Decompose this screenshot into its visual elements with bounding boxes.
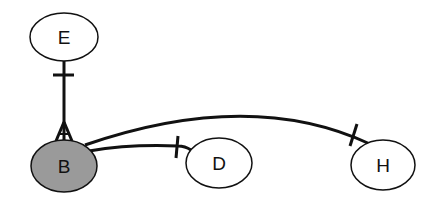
node-h-label: H xyxy=(376,155,390,176)
node-e[interactable]: E xyxy=(30,13,98,61)
node-d[interactable]: D xyxy=(186,138,252,188)
node-d-label: D xyxy=(212,153,226,174)
diagram-svg: E B D H xyxy=(0,0,437,199)
one-tick-mark xyxy=(176,136,178,158)
er-diagram: E B D H xyxy=(0,0,437,199)
node-e-label: E xyxy=(58,27,71,48)
node-b[interactable]: B xyxy=(31,140,97,192)
node-h[interactable]: H xyxy=(351,140,415,190)
edge-e-b xyxy=(53,61,74,141)
node-b-label: B xyxy=(58,156,71,177)
